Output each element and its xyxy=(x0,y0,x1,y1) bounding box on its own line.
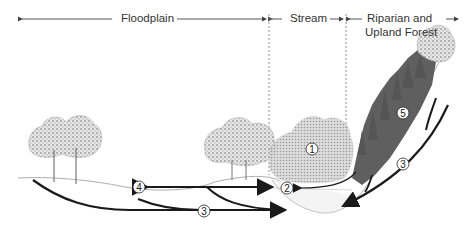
svg-text:2: 2 xyxy=(284,183,290,194)
svg-text:5: 5 xyxy=(400,108,406,119)
marker-5: 5 xyxy=(397,107,409,119)
svg-text:3: 3 xyxy=(400,159,406,170)
marker-3-bottom: 3 xyxy=(198,205,210,217)
zone-label-riparian-line2: Upland Forest xyxy=(362,26,440,39)
floodplain-trees-middle xyxy=(204,118,276,180)
marker-3-slope: 3 xyxy=(397,158,409,170)
zone-label-riparian-line1: Riparian and xyxy=(364,12,435,25)
marker-4: 4 xyxy=(133,181,145,193)
svg-text:1: 1 xyxy=(309,144,315,155)
floodplain-trees-left xyxy=(29,116,102,185)
zone-label-floodplain: Floodplain xyxy=(118,12,177,25)
marker-2: 2 xyxy=(281,182,293,194)
marker-1: 1 xyxy=(306,143,318,155)
zone-label-stream: Stream xyxy=(287,12,330,25)
svg-text:3: 3 xyxy=(201,206,207,217)
svg-text:4: 4 xyxy=(136,182,142,193)
